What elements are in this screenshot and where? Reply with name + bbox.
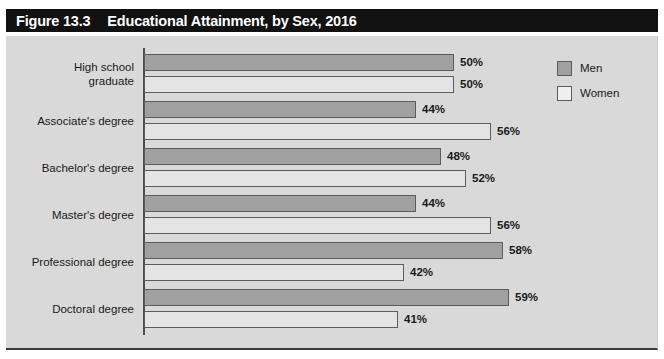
- legend-label-men: Men: [580, 62, 602, 74]
- bar-value-men-3: 48%: [447, 148, 470, 165]
- bar-value-women-4: 56%: [497, 217, 520, 234]
- category-label-line: Master's degree: [6, 208, 134, 222]
- legend-item-women: Women: [557, 83, 619, 103]
- bar-men-4: [144, 195, 416, 212]
- category-label-2: Associate's degree: [6, 114, 136, 128]
- chart-legend: Men Women: [557, 58, 619, 108]
- bar-value-women-3: 52%: [472, 170, 495, 187]
- figure-title-bar: Figure 13.3 Educational Attainment, by S…: [6, 9, 658, 32]
- men-swatch-icon: [557, 61, 572, 76]
- legend-item-men: Men: [557, 58, 619, 78]
- bar-men-3: [144, 148, 441, 165]
- figure-number: Figure 13.3: [16, 13, 90, 29]
- bar-value-women-2: 56%: [497, 123, 520, 140]
- category-label-line: graduate: [6, 74, 134, 88]
- bar-women-3: [144, 170, 466, 187]
- bar-value-men-2: 44%: [422, 101, 445, 118]
- figure-container: Figure 13.3 Educational Attainment, by S…: [0, 0, 664, 359]
- chart-panel: 50%50%High schoolgraduate44%56%Associate…: [6, 36, 658, 350]
- bar-value-men-4: 44%: [422, 195, 445, 212]
- bar-men-6: [144, 289, 509, 306]
- bar-women-4: [144, 217, 491, 234]
- category-label-6: Doctoral degree: [6, 302, 136, 316]
- bar-value-women-6: 41%: [404, 311, 427, 328]
- category-label-1: High schoolgraduate: [6, 60, 136, 88]
- category-label-line: Professional degree: [6, 255, 134, 269]
- category-label-line: Associate's degree: [6, 114, 134, 128]
- bar-men-2: [144, 101, 416, 118]
- bar-value-men-1: 50%: [460, 54, 483, 71]
- category-label-5: Professional degree: [6, 255, 136, 269]
- bar-women-5: [144, 264, 404, 281]
- category-label-line: Bachelor's degree: [6, 161, 134, 175]
- bar-women-6: [144, 311, 398, 328]
- page-title: Educational Attainment, by Sex, 2016: [107, 13, 356, 29]
- bar-value-women-1: 50%: [460, 76, 483, 93]
- category-label-3: Bachelor's degree: [6, 161, 136, 175]
- category-label-line: High school: [6, 60, 134, 74]
- bar-women-2: [144, 123, 491, 140]
- bar-men-1: [144, 54, 454, 71]
- category-label-4: Master's degree: [6, 208, 136, 222]
- bar-value-women-5: 42%: [410, 264, 433, 281]
- legend-label-women: Women: [580, 87, 619, 99]
- women-swatch-icon: [557, 86, 572, 101]
- category-label-line: Doctoral degree: [6, 302, 134, 316]
- bar-women-1: [144, 76, 454, 93]
- bar-value-men-6: 59%: [515, 289, 538, 306]
- bar-men-5: [144, 242, 503, 259]
- bar-value-men-5: 58%: [509, 242, 532, 259]
